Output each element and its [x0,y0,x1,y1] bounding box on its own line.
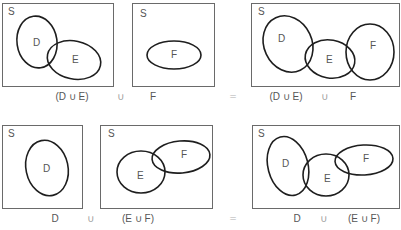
panel-d: SD [3,126,83,209]
set-e-label: E [324,173,331,184]
equals-sign: = [229,213,237,223]
set-d-label: D [43,163,50,174]
set-e-label: E [72,54,79,65]
expression-caption: (E ∪ F) [348,213,380,224]
venn-diagram-figure: SDESFSDEF(D ∪ E)∪F=(D ∪ E)∪FSDSEFSDEFD∪(… [0,0,401,230]
universe-box [252,4,400,87]
union-operator: ∪ [321,91,328,102]
expression-caption: F [150,91,156,102]
set-d-label: D [282,158,289,169]
union-operator: ∪ [87,213,94,224]
diagram-rows: SDESFSDEF(D ∪ E)∪F=(D ∪ E)∪FSDSEFSDEFD∪(… [3,4,400,225]
set-e-label: E [326,54,333,65]
universe-label: S [140,8,147,19]
panel-d-union-e: SDE [3,4,114,87]
union-operator: ∪ [117,91,124,102]
universe-label: S [258,6,265,17]
panel-result-2: SDEF [253,126,400,209]
expression-caption: (D ∪ E) [269,91,302,102]
equals-sign: = [229,91,237,101]
panel-e-union-f: SEF [101,126,213,209]
universe-label: S [8,6,15,17]
universe-label: S [8,128,15,139]
set-f-label: F [370,40,376,51]
universe-label: S [258,128,265,139]
panel-f: SF [133,4,215,87]
set-f-label: F [363,153,369,164]
panel-result-1: SDEF [252,4,400,87]
set-f-label: F [171,49,177,60]
expression-caption: D [293,213,300,224]
row-1: SDESFSDEF(D ∪ E)∪F=(D ∪ E)∪F [3,4,400,103]
set-e-label: E [137,170,144,181]
universe-label: S [108,128,115,139]
set-f-ellipse [346,24,394,80]
expression-caption: (D ∪ E) [55,91,88,102]
set-f-label: F [181,149,187,160]
expression-caption: D [51,213,58,224]
expression-caption: F [350,91,356,102]
set-d-label: D [33,37,40,48]
row-2: SDSEFSDEFD∪(E ∪ F)=D∪(E ∪ F) [3,126,400,225]
expression-caption: (E ∪ F) [122,213,154,224]
union-operator: ∪ [320,213,327,224]
set-d-label: D [278,33,285,44]
